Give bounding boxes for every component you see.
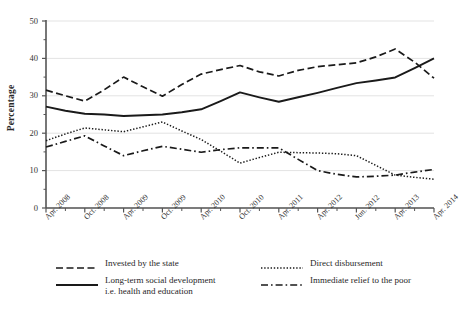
legend-line-swatch: [56, 259, 98, 269]
series-line-1: [46, 58, 434, 116]
y-tick-label: 10: [16, 165, 38, 175]
legend-swatch-dashdot: [261, 280, 303, 290]
data-series: [46, 49, 434, 179]
legend-item-label: Invested by the state: [105, 258, 179, 269]
legend-item[interactable]: Direct disbursement: [261, 258, 383, 269]
legend-item-label: Direct disbursement: [310, 258, 383, 269]
legend-swatch-dotted: [261, 263, 303, 273]
y-tick-label: 40: [16, 53, 38, 63]
legend-line-swatch: [56, 276, 98, 286]
y-tick-label: 20: [16, 128, 38, 138]
legend-item[interactable]: Long-term social development i.e. health…: [56, 275, 215, 297]
legend-swatch-solid: [56, 280, 98, 290]
y-tick-label: 50: [16, 16, 38, 26]
legend-swatch-dashed: [56, 263, 98, 273]
legend-line-swatch: [261, 276, 303, 286]
y-tick-label: 0: [16, 203, 38, 213]
axis-ticks: [42, 21, 434, 213]
chart-legend: Invested by the stateLong-term social de…: [56, 258, 440, 310]
legend-item-label: Immediate relief to the poor: [310, 275, 411, 286]
legend-item-label: Long-term social development i.e. health…: [105, 275, 215, 297]
legend-item[interactable]: Immediate relief to the poor: [261, 275, 411, 286]
y-tick-label: 30: [16, 90, 38, 100]
legend-item[interactable]: Invested by the state: [56, 258, 179, 269]
legend-line-swatch: [261, 259, 303, 269]
